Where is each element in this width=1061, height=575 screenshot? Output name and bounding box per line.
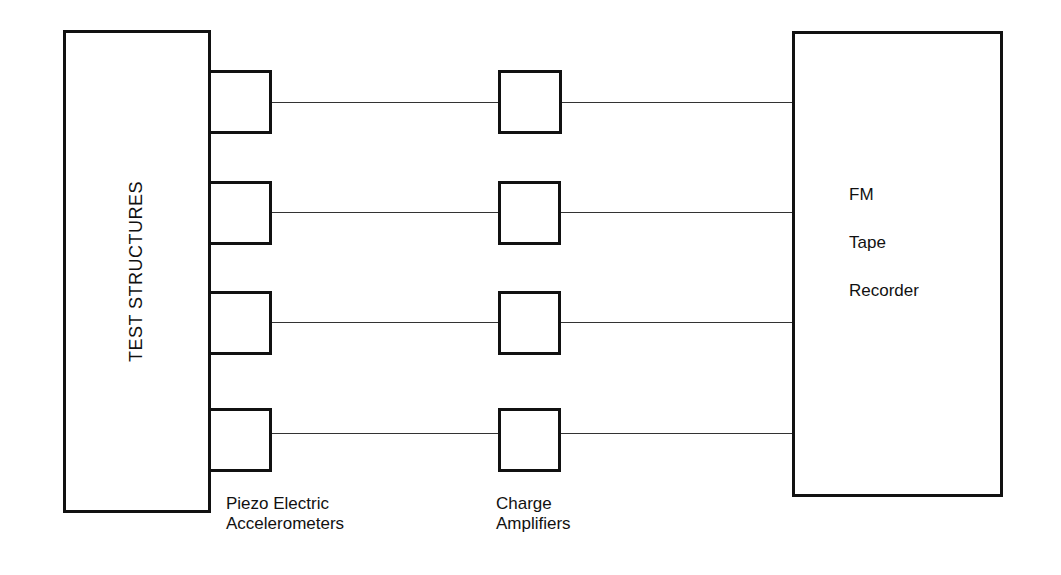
charge-amplifier-box-3 [498,291,561,355]
accelerometer-box-1 [208,70,272,134]
test-structures-label: TEST STRUCTURES [126,172,147,372]
signal-line-acc-amp-1 [272,102,499,103]
charge-amplifier-box-4 [498,408,561,472]
signal-line-acc-amp-3 [272,322,499,323]
signal-line-acc-amp-4 [272,433,499,434]
charge-amplifiers-caption-line2: Amplifiers [496,514,571,534]
signal-line-amp-rec-2 [561,212,794,213]
accelerometer-box-2 [208,181,272,245]
recorder-label-line3: Recorder [849,281,919,301]
charge-amplifiers-caption-line1: Charge [496,494,571,514]
accelerometers-caption-line1: Piezo Electric [226,494,344,514]
charge-amplifier-box-2 [498,181,561,245]
signal-line-acc-amp-2 [272,212,499,213]
accelerometer-box-4 [208,408,272,472]
recorder-label-line2: Tape [849,233,886,253]
signal-line-amp-rec-4 [561,433,794,434]
accelerometers-caption-line2: Accelerometers [226,514,344,534]
fm-tape-recorder-block: FM Tape Recorder [792,31,1003,497]
accelerometers-caption: Piezo Electric Accelerometers [226,494,344,534]
charge-amplifier-box-1 [498,70,562,134]
signal-line-amp-rec-3 [561,322,794,323]
accelerometer-box-3 [208,291,272,355]
charge-amplifiers-caption: Charge Amplifiers [496,494,571,534]
signal-line-amp-rec-1 [562,102,794,103]
recorder-label-line1: FM [849,185,874,205]
test-structures-block: TEST STRUCTURES [63,30,211,513]
